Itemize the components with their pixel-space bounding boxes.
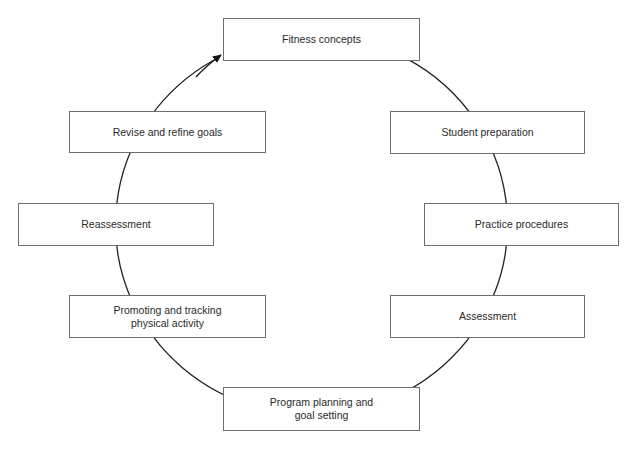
step-label: Practice procedures xyxy=(475,218,568,231)
step-box-revise-refine: Revise and refine goals xyxy=(69,111,266,153)
step-label: Revise and refine goals xyxy=(113,126,223,139)
step-label: Program planning and goal setting xyxy=(270,396,373,422)
step-box-fitness-concepts: Fitness concepts xyxy=(223,18,420,61)
cycle-arrow-icon xyxy=(196,55,221,77)
step-label: Reassessment xyxy=(81,218,150,231)
step-box-promoting-tracking: Promoting and tracking physical activity xyxy=(69,295,266,338)
step-label: Fitness concepts xyxy=(282,33,361,46)
step-box-practice-procedures: Practice procedures xyxy=(424,203,619,246)
step-box-student-preparation: Student preparation xyxy=(390,111,585,154)
step-box-assessment: Assessment xyxy=(390,295,585,338)
step-box-program-planning: Program planning and goal setting xyxy=(223,387,420,431)
step-label: Assessment xyxy=(459,310,516,323)
step-box-reassessment: Reassessment xyxy=(18,203,214,246)
step-label: Student preparation xyxy=(441,126,533,139)
step-label: Promoting and tracking physical activity xyxy=(114,304,222,330)
